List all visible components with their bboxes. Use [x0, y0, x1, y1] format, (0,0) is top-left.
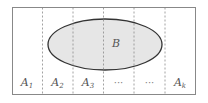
partition-ellipsis-label: ··· [145, 77, 155, 88]
event-b-ellipse [48, 19, 162, 70]
partition-diagram: B A1A2A3······Ak [0, 0, 208, 103]
partition-ellipsis-label: ··· [114, 77, 124, 88]
event-b-label: B [111, 37, 120, 50]
